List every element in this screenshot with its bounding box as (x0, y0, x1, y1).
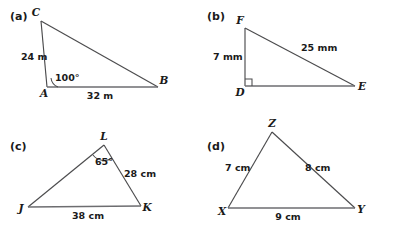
triangle-worksheet-figure: (a) C A B 24 m 32 m 100° (b) F D E 7 mm … (0, 0, 394, 231)
panel-c-angle-label-L: 65° (95, 156, 113, 167)
panel-a-angle-label-A: 100° (55, 72, 80, 83)
panel-b-label: (b) (207, 10, 225, 23)
panel-c-side-label-JK: 38 cm (72, 210, 104, 221)
panel-b-right-angle-icon (245, 79, 252, 86)
panel-d-vertex-Z: Z (267, 117, 276, 129)
panel-b-edge-FE (245, 28, 355, 86)
panel-d-side-label-ZY: 8 cm (305, 162, 331, 173)
panel-a-side-label-CA: 24 m (21, 51, 48, 62)
panel-d-side-label-XY: 9 cm (275, 211, 301, 222)
panel-d-side-label-XZ: 7 cm (225, 162, 251, 173)
panel-c-label: (c) (10, 140, 27, 153)
panel-d-vertex-X: X (217, 205, 227, 217)
panel-b-side-label-FE: 25 mm (301, 42, 337, 53)
panel-c-group: (c) L J K 65° 28 cm 38 cm (10, 130, 156, 221)
panel-a-vertex-B: B (159, 74, 169, 86)
panel-c-side-label-LK: 28 cm (124, 168, 156, 179)
panel-b-group: (b) F D E 7 mm 25 mm (207, 10, 367, 98)
panel-c-edge-JK (28, 206, 141, 207)
panel-a-label: (a) (10, 10, 27, 23)
panel-c-vertex-L: L (99, 130, 107, 142)
panel-a-side-label-AB: 32 m (87, 90, 114, 101)
panel-c-vertex-K: K (141, 201, 152, 213)
panel-d-vertex-Y: Y (357, 203, 366, 215)
panel-a-group: (a) C A B 24 m 32 m 100° (10, 6, 169, 101)
figure-canvas: (a) C A B 24 m 32 m 100° (b) F D E 7 mm … (0, 0, 394, 231)
panel-c-edge-LJ (28, 145, 104, 207)
panel-d-group: (d) Z X Y 7 cm 8 cm 9 cm (207, 117, 366, 222)
panel-a-vertex-A: A (39, 87, 48, 99)
panel-a-vertex-C: C (32, 6, 41, 18)
panel-c-vertex-J: J (17, 202, 25, 214)
panel-b-vertex-D: D (234, 86, 245, 98)
panel-b-side-label-FD: 7 mm (213, 51, 243, 62)
panel-b-vertex-F: F (235, 14, 245, 26)
panel-d-label: (d) (207, 140, 225, 153)
panel-b-vertex-E: E (357, 80, 367, 92)
